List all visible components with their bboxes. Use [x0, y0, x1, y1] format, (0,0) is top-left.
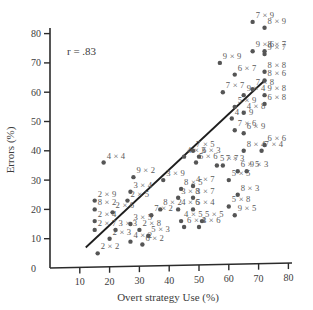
y-tick-label: 40 — [31, 145, 41, 156]
data-point — [93, 198, 97, 202]
data-point-label: 3 × 7 — [196, 186, 215, 196]
x-axis-title: Overt strategy Use (%) — [117, 291, 219, 304]
data-point-label: 9 × 9 — [223, 51, 242, 61]
x-tick-label: 70 — [254, 273, 264, 284]
data-point-label: 8 × 4 — [247, 139, 266, 149]
data-point — [176, 207, 180, 211]
data-point-label: 3 × 6 — [202, 215, 221, 225]
y-tick-label: 70 — [31, 57, 41, 68]
data-point — [93, 219, 97, 223]
data-point — [215, 163, 219, 167]
data-point — [182, 225, 186, 229]
data-point — [233, 213, 237, 217]
x-tick-label: 80 — [283, 272, 293, 283]
data-point-label: 2 × 3 — [113, 227, 132, 237]
data-point-label: 7 × 7 — [226, 80, 245, 90]
data-point — [93, 207, 97, 211]
data-point-label: 4 × 4 — [107, 151, 126, 161]
data-point — [233, 128, 237, 132]
data-point — [242, 149, 246, 153]
data-point-label: 4 × 9 — [235, 107, 254, 117]
x-tick-label: 20 — [105, 276, 115, 287]
x-tick-label: 50 — [194, 274, 204, 285]
data-point-label: 9 × 5 — [238, 203, 257, 213]
y-tick-label: 60 — [31, 87, 41, 98]
data-point-label: 6 × 7 — [238, 63, 257, 73]
data-point-label: 4 × 7 — [196, 174, 215, 184]
data-point — [93, 228, 97, 232]
data-point-label: 6 × 9 — [247, 121, 266, 131]
y-axis-title: Errors (%) — [4, 126, 17, 173]
data-point — [233, 72, 237, 76]
data-point — [197, 225, 201, 229]
data-point-label: 5 × 5 — [232, 168, 251, 178]
data-point — [242, 131, 246, 135]
data-point — [262, 26, 266, 30]
data-point-label: 7 × 4 — [265, 139, 284, 149]
data-point — [262, 52, 266, 56]
data-point — [101, 160, 105, 164]
y-axis: 01020304050607080 — [31, 28, 50, 274]
y-tick-label: 50 — [31, 116, 41, 127]
data-point — [262, 69, 266, 73]
data-point — [179, 219, 183, 223]
y-tick-label: 80 — [31, 28, 41, 39]
data-point-label: 6 × 2 — [145, 233, 164, 243]
data-point-label: 2 × 5 — [130, 189, 149, 199]
y-tick-label: 20 — [31, 204, 41, 215]
data-point-label: 9 × 2 — [136, 165, 155, 175]
x-tick-label: 10 — [75, 276, 85, 287]
data-point — [161, 178, 165, 182]
data-point — [128, 239, 132, 243]
data-point-label: 2 × 6 — [116, 200, 135, 210]
x-tick-label: 60 — [224, 273, 234, 284]
data-points: 7 × 98 × 99 × 68 × 79 × 79 × 96 × 78 × 8… — [93, 10, 287, 256]
data-point — [221, 90, 225, 94]
x-tick-label: 30 — [134, 275, 144, 286]
data-point-label: 5 × 6 — [199, 151, 218, 161]
data-point — [250, 49, 254, 53]
data-point-label: 7 × 2 — [154, 203, 173, 213]
data-point-label: 5 × 4 — [196, 197, 215, 207]
correlation-annotation: r = .83 — [67, 45, 97, 57]
data-point-label: 2 × 2 — [101, 241, 120, 251]
data-point — [262, 93, 266, 97]
data-point-label: 9 × 3 — [250, 159, 269, 169]
data-point-label: 3 × 9 — [166, 168, 185, 178]
y-tick-label: 10 — [31, 233, 41, 244]
data-point — [182, 154, 186, 158]
data-point — [218, 61, 222, 65]
data-point-label: 8 × 2 — [98, 197, 117, 207]
x-axis: 1020304050607080 — [50, 263, 293, 287]
data-point-label: 6 × 8 — [268, 92, 287, 102]
data-point — [259, 149, 263, 153]
y-tick-label: 30 — [31, 175, 41, 186]
data-point-label: 9 × 4 — [247, 83, 266, 93]
data-point — [221, 163, 225, 167]
data-point — [227, 178, 231, 182]
data-point-label: 8 × 9 — [268, 16, 287, 26]
data-point-label: 8 × 3 — [241, 183, 260, 193]
data-point — [131, 175, 135, 179]
data-point — [230, 116, 234, 120]
data-point — [140, 242, 144, 246]
data-point — [95, 251, 99, 255]
data-point — [107, 237, 111, 241]
data-point — [250, 20, 254, 24]
data-point — [227, 204, 231, 208]
scatter-chart: 01020304050607080 1020304050607080 7 × 9… — [0, 0, 313, 310]
x-tick-label: 40 — [164, 275, 174, 286]
data-point-label: 9 × 7 — [268, 42, 287, 52]
y-tick-label: 0 — [31, 263, 36, 274]
data-point — [194, 160, 198, 164]
